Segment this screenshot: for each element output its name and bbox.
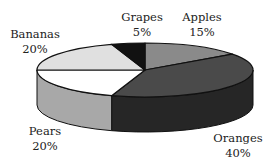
label-bananas-pct: 20% — [10, 42, 60, 57]
pie-tops — [37, 43, 253, 97]
label-pears-name: Pears — [29, 124, 61, 139]
label-apples: Apples 15% — [182, 10, 221, 40]
label-oranges-name: Oranges — [213, 131, 262, 146]
label-oranges-pct: 40% — [213, 146, 262, 161]
label-grapes: Grapes 5% — [121, 10, 163, 40]
label-bananas-name: Bananas — [10, 27, 60, 42]
label-grapes-name: Grapes — [121, 10, 163, 25]
label-pears-pct: 20% — [29, 139, 61, 154]
label-grapes-pct: 5% — [121, 25, 163, 40]
label-apples-pct: 15% — [182, 25, 221, 40]
label-oranges: Oranges 40% — [213, 131, 262, 161]
label-pears: Pears 20% — [29, 124, 61, 154]
label-bananas: Bananas 20% — [10, 27, 60, 57]
label-apples-name: Apples — [182, 10, 221, 25]
